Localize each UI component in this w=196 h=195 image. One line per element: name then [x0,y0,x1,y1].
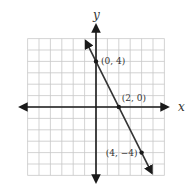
point-label: (2, 0) [122,93,146,103]
data-point [117,105,121,109]
data-point [139,150,143,154]
y-axis-label: y [92,8,100,22]
coordinate-plane: x y (0, 4)(2, 0)(4, −4) [0,0,196,195]
point-label: (4, −4) [106,148,138,158]
x-axis-label: x [178,100,185,114]
point-label: (0, 4) [101,56,125,66]
data-point [94,59,98,63]
